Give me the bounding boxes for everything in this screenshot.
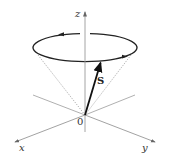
- diagram-canvas: z x y 0 S: [0, 0, 169, 162]
- z-axis-label: z: [74, 8, 81, 19]
- spin-vector-s: [85, 63, 101, 115]
- vector-s-label: S: [97, 75, 104, 86]
- y-axis: [85, 115, 155, 142]
- spin-precession-diagram: z x y 0 S: [0, 0, 169, 162]
- y-axis-label: y: [141, 142, 148, 153]
- x-axis-label: x: [19, 142, 25, 153]
- x-axis: [15, 115, 85, 142]
- y-axis-back: [33, 95, 85, 115]
- origin-label: 0: [77, 116, 83, 127]
